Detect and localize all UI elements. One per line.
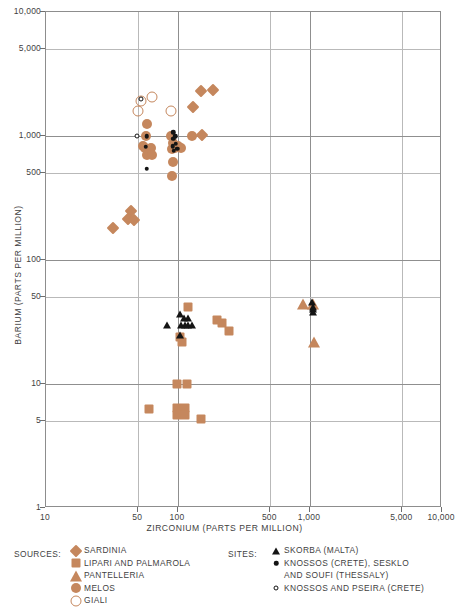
y-tick-label: 10,000 <box>1 6 41 16</box>
legend-label: KNOSSOS (CRETE), SESKLO <box>284 558 409 569</box>
legend-swatch-square <box>72 559 81 568</box>
legend-marker-diamond <box>68 545 84 556</box>
data-point-dot <box>173 134 178 139</box>
data-point-square <box>182 380 191 389</box>
data-point-circle <box>187 131 197 141</box>
x-tick-label: 50 <box>132 512 142 522</box>
legend-marker-open-circle <box>68 595 84 606</box>
legend-label: PANTELLERIA <box>84 570 145 581</box>
gridline-vertical <box>402 12 403 506</box>
data-point-circle <box>147 150 157 160</box>
data-point-triangle-black <box>309 309 317 316</box>
x-tick-label: 5,000 <box>390 512 412 522</box>
data-point-dot <box>173 141 178 146</box>
y-tick-label: 1 <box>1 502 41 512</box>
legend-label: KNOSSOS AND PSEIRA (CRETE) <box>284 583 424 594</box>
gridline-vertical <box>270 12 271 506</box>
gridline-horizontal <box>46 384 440 385</box>
y-tick-mark <box>40 507 45 508</box>
gridline-vertical <box>138 12 139 506</box>
legend-marker-triangle <box>68 570 84 581</box>
legend-item-melos: MELOS <box>68 583 115 594</box>
legend-swatch-diamond <box>70 544 83 557</box>
gridline-horizontal <box>46 49 440 50</box>
x-axis-title: ZIRCONIUM (PARTS PER MILLION) <box>0 523 449 533</box>
y-tick-label: 500 <box>1 167 41 177</box>
y-tick-label: 5,000 <box>1 43 41 53</box>
data-point-open-circle <box>146 92 157 103</box>
gridline-horizontal <box>46 297 440 298</box>
legend-item-giali: GIALI <box>68 595 107 606</box>
gridline-horizontal <box>46 173 440 174</box>
data-point-open-circle <box>165 105 176 116</box>
x-tick-label: 100 <box>170 512 185 522</box>
x-tick-mark <box>177 507 178 512</box>
legend-item-skorba-malta: SKORBA (MALTA) <box>268 545 359 556</box>
data-point-open-circle <box>133 105 144 116</box>
y-axis-title: BARIUM (PARTS PER MILLION) <box>13 160 23 390</box>
data-point-square <box>197 415 206 424</box>
y-tick-label: 5 <box>1 415 41 425</box>
data-point-diamond <box>195 85 208 98</box>
data-point-diamond <box>196 129 209 142</box>
data-point-circle <box>142 119 152 129</box>
legend-swatch-dot <box>274 561 279 566</box>
y-tick-label: 50 <box>1 291 41 301</box>
x-tick-mark <box>401 507 402 512</box>
gridline-horizontal <box>46 260 440 261</box>
x-tick-mark <box>441 507 442 512</box>
x-tick-label: 500 <box>262 512 277 522</box>
legend-marker-tiny-open-circle <box>268 583 284 594</box>
legend-marker-dot <box>268 558 284 569</box>
data-point-square <box>177 337 186 346</box>
data-point-circle <box>167 171 177 181</box>
data-point-square <box>181 411 190 420</box>
data-point-tiny-open-circle <box>135 134 140 139</box>
legend-item-knossos-crete-sesklo: KNOSSOS (CRETE), SESKLO <box>268 558 409 569</box>
legend-swatch-open-circle <box>71 595 82 606</box>
legend-item-sardinia: SARDINIA <box>68 545 127 556</box>
legend-item-pantelleria: PANTELLERIA <box>68 570 145 581</box>
legend-sources-heading: SOURCES: <box>14 549 61 559</box>
data-point-dot <box>144 144 149 149</box>
data-point-dot <box>145 166 150 171</box>
data-point-triangle <box>308 336 320 347</box>
x-tick-mark <box>309 507 310 512</box>
data-point-triangle-black <box>163 321 171 328</box>
data-point-dot <box>175 146 180 151</box>
legend-swatch-triangle <box>70 570 82 581</box>
legend-item-knossos-and-pseira-crete: KNOSSOS AND PSEIRA (CRETE) <box>268 583 424 594</box>
x-tick-label: 1,000 <box>298 512 320 522</box>
legend-swatch-triangle-black <box>272 547 280 554</box>
legend-label-continued: AND SOUFI (THESSALY) <box>284 570 389 581</box>
y-tick-label: 100 <box>1 254 41 264</box>
legend-item-lipari-and-palmarola: LIPARI AND PALMAROLA <box>68 558 190 569</box>
x-tick-mark <box>137 507 138 512</box>
y-tick-label: 1,000 <box>1 130 41 140</box>
legend-marker-circle <box>68 583 84 594</box>
legend-marker-square <box>68 558 84 569</box>
legend-label: MELOS <box>84 583 115 594</box>
data-point-square <box>225 326 234 335</box>
legend-label: SARDINIA <box>84 545 127 556</box>
data-point-dot <box>145 134 150 139</box>
data-point-diamond <box>187 101 200 114</box>
chart-legend: SOURCES: SITES: SARDINIALIPARI AND PALMA… <box>0 545 449 614</box>
legend-label: SKORBA (MALTA) <box>284 545 359 556</box>
legend-swatch-tiny-open-circle <box>274 586 279 591</box>
data-point-square <box>144 404 153 413</box>
data-point-square <box>172 380 181 389</box>
x-tick-label: 10,000 <box>427 512 454 522</box>
gridline-vertical <box>310 12 311 506</box>
data-point-triangle-black <box>176 331 184 338</box>
gridline-vertical <box>178 12 179 506</box>
legend-label: LIPARI AND PALMAROLA <box>84 558 190 569</box>
x-tick-label: 10 <box>40 512 50 522</box>
legend-label: GIALI <box>84 595 107 606</box>
gridline-horizontal <box>46 421 440 422</box>
plot-area <box>45 11 441 507</box>
data-point-circle <box>168 157 178 167</box>
gridline-horizontal <box>46 136 440 137</box>
y-tick-label: 10 <box>1 378 41 388</box>
